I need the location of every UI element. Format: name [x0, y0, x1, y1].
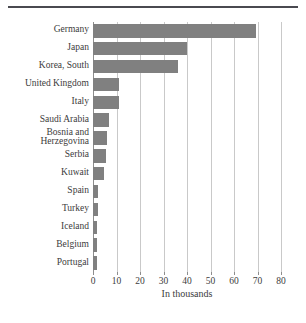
category-label: Portugal — [1, 258, 89, 268]
category-label: Turkey — [1, 204, 89, 214]
x-tick-label: 0 — [80, 276, 106, 287]
x-tick-label: 70 — [245, 276, 271, 287]
category-label: Bosnia and Herzegovina — [1, 128, 89, 147]
bar-row: Spain — [93, 183, 281, 201]
x-tick — [211, 272, 212, 275]
x-tick-label: 60 — [221, 276, 247, 287]
bar — [93, 238, 97, 251]
bar — [93, 221, 97, 234]
bar-row: Turkey — [93, 201, 281, 219]
x-tick — [281, 272, 282, 275]
bar-row: Japan — [93, 40, 281, 58]
bar — [93, 185, 98, 198]
x-tick-label: 50 — [198, 276, 224, 287]
plot-area: GermanyJapanKorea, SouthUnited KingdomIt… — [93, 22, 281, 272]
bar-row: Serbia — [93, 147, 281, 165]
x-tick — [258, 272, 259, 275]
bar — [93, 131, 107, 144]
bar-row: Portugal — [93, 254, 281, 272]
header-rule — [8, 6, 298, 8]
bar-row: Italy — [93, 93, 281, 111]
bar — [93, 24, 256, 37]
x-tick — [234, 272, 235, 275]
bar — [93, 60, 178, 73]
category-label: Spain — [1, 186, 89, 196]
bar — [93, 203, 98, 216]
bar-row: Germany — [93, 22, 281, 40]
category-label: Saudi Arabia — [1, 115, 89, 125]
x-axis-title: In thousands — [93, 288, 281, 300]
x-tick — [164, 272, 165, 275]
bar-row: Belgium — [93, 236, 281, 254]
bar-chart-figure: GermanyJapanKorea, SouthUnited KingdomIt… — [0, 0, 306, 323]
x-tick-label: 80 — [268, 276, 294, 287]
bar-row: Kuwait — [93, 165, 281, 183]
category-label: Japan — [1, 43, 89, 53]
category-label: Korea, South — [1, 61, 89, 71]
bar — [93, 256, 97, 269]
x-tick-label: 20 — [127, 276, 153, 287]
category-label: Serbia — [1, 150, 89, 160]
category-label: United Kingdom — [1, 79, 89, 89]
bar — [93, 149, 106, 162]
bar — [93, 113, 109, 126]
bar-row: Saudi Arabia — [93, 111, 281, 129]
bar-row: Bosnia and Herzegovina — [93, 129, 281, 147]
bar — [93, 167, 104, 180]
x-tick-label: 30 — [151, 276, 177, 287]
category-label: Italy — [1, 97, 89, 107]
x-tick — [140, 272, 141, 275]
category-label: Kuwait — [1, 168, 89, 178]
gridline-80 — [281, 22, 282, 272]
bar — [93, 78, 119, 91]
x-tick — [187, 272, 188, 275]
bar — [93, 42, 187, 55]
bar-rows: GermanyJapanKorea, SouthUnited KingdomIt… — [93, 22, 281, 272]
x-tick — [117, 272, 118, 275]
bar — [93, 96, 119, 109]
bar-row: United Kingdom — [93, 76, 281, 94]
x-tick-label: 10 — [104, 276, 130, 287]
bar-row: Iceland — [93, 218, 281, 236]
bar-row: Korea, South — [93, 58, 281, 76]
category-label: Germany — [1, 25, 89, 35]
x-tick — [93, 272, 94, 275]
category-label: Belgium — [1, 240, 89, 250]
x-tick-label: 40 — [174, 276, 200, 287]
category-label: Iceland — [1, 222, 89, 232]
